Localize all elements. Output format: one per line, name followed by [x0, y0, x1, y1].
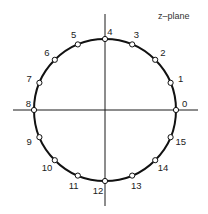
- sample-point-label-3: 3: [134, 29, 139, 40]
- sample-point-4: [102, 36, 107, 41]
- sample-point-1: [168, 80, 173, 85]
- sample-point-label-15: 15: [175, 136, 186, 147]
- sample-point-labels: 0123456789101112131415: [26, 26, 188, 196]
- sample-point-label-2: 2: [160, 47, 165, 58]
- sample-point-label-10: 10: [42, 162, 53, 173]
- sample-point-label-7: 7: [27, 73, 32, 84]
- sample-point-label-5: 5: [71, 29, 76, 40]
- sample-point-label-4: 4: [107, 26, 112, 37]
- sample-point-label-14: 14: [158, 162, 169, 173]
- sample-point-5: [75, 42, 80, 47]
- sample-point-7: [37, 80, 42, 85]
- sample-point-label-0: 0: [182, 98, 187, 109]
- sample-point-label-8: 8: [26, 98, 31, 109]
- sample-point-8: [31, 107, 36, 112]
- sample-point-11: [75, 173, 80, 178]
- sample-point-12: [102, 178, 107, 183]
- sample-point-13: [130, 173, 135, 178]
- sample-point-label-11: 11: [69, 180, 79, 191]
- sample-point-label-1: 1: [178, 73, 183, 84]
- sample-point-9: [37, 135, 42, 140]
- sample-point-10: [52, 158, 57, 163]
- sample-point-label-9: 9: [27, 136, 32, 147]
- sample-point-6: [52, 57, 57, 62]
- z-plane-label: z–plane: [158, 11, 190, 21]
- z-plane-diagram: 0123456789101112131415 z–plane: [0, 0, 208, 214]
- sample-point-label-12: 12: [93, 185, 104, 196]
- sample-point-0: [173, 107, 178, 112]
- sample-point-2: [153, 57, 158, 62]
- sample-point-3: [130, 42, 135, 47]
- sample-point-15: [168, 135, 173, 140]
- sample-point-label-6: 6: [44, 47, 49, 58]
- sample-point-label-13: 13: [131, 180, 142, 191]
